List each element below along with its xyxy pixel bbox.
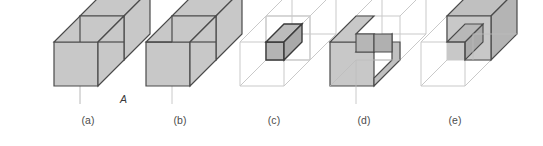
boolean-operations-figure-plate: (a) A B bbox=[0, 0, 543, 146]
e-notch-open bbox=[447, 42, 465, 60]
d-notch-inner-side bbox=[374, 34, 392, 52]
panel-e-caption: (e) bbox=[399, 114, 511, 126]
cube-a-front-face bbox=[54, 42, 98, 86]
panel-e-b-minus-a: (e) bbox=[399, 0, 511, 146]
intersection-solid bbox=[266, 24, 302, 60]
d-notch-inner-front bbox=[356, 34, 374, 52]
difference-a-minus-b-solid bbox=[330, 16, 400, 104]
union-a-front-face bbox=[146, 42, 190, 86]
cube-a-solid bbox=[54, 16, 124, 104]
union-cube-a-faces bbox=[146, 16, 216, 86]
difference-b-minus-a-solid bbox=[447, 0, 517, 60]
intersection-front-face bbox=[266, 42, 284, 60]
